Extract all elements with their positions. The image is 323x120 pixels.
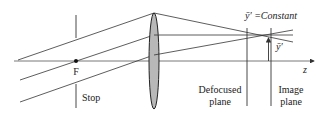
- image-height-label: ȳ′: [276, 41, 283, 52]
- defocused-plane-label-line1: Defocused: [199, 84, 242, 95]
- telecentric-stop-diagram: F Stop ȳ′ =Constant ȳ′ z Defocused plane…: [0, 0, 323, 120]
- ray-bottom-out: [154, 30, 293, 55]
- ray-chief-in: [20, 35, 154, 80]
- stop-label: Stop: [82, 92, 100, 103]
- z-axis-label: z: [303, 64, 307, 75]
- focal-point-label: F: [73, 66, 79, 77]
- image-plane-label-line2: plane: [280, 96, 302, 107]
- lens: [149, 13, 159, 109]
- constant-label: ȳ′ =Constant: [245, 10, 297, 21]
- ray-top-in: [18, 13, 154, 60]
- focal-point-dot: [74, 59, 78, 63]
- image-plane-label-line1: Image: [279, 84, 304, 95]
- defocused-plane-label-line2: plane: [209, 96, 231, 107]
